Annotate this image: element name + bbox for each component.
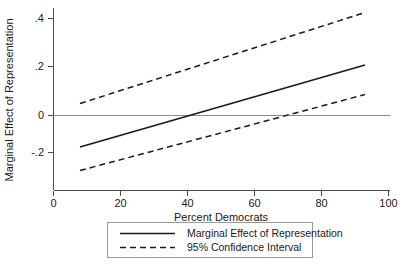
y-tick-label-1: .2 <box>35 60 44 72</box>
x-tick-label-0: 0 <box>50 197 56 209</box>
y-tick-label-0: .4 <box>35 12 44 24</box>
x-tick-label-2: 40 <box>181 197 193 209</box>
x-tick-label-3: 60 <box>248 197 260 209</box>
x-axis-title: Percent Democrats <box>174 211 269 223</box>
y-tick-label-2: 0 <box>38 109 44 121</box>
x-tick-label-5: 100 <box>379 197 397 209</box>
chart-figure: .4 .2 0 -.2 0 20 40 60 80 100 Percent De… <box>0 0 402 267</box>
marginal-effect-plot: .4 .2 0 -.2 0 20 40 60 80 100 Percent De… <box>0 0 402 267</box>
x-tick-label-1: 20 <box>114 197 126 209</box>
y-tick-label-3: -.2 <box>31 146 44 158</box>
legend-label-confidence-interval: 95% Confidence Interval <box>187 241 301 253</box>
x-tick-label-4: 80 <box>315 197 327 209</box>
y-axis-title: Marginal Effect of Representation <box>3 18 15 181</box>
legend-label-marginal-effect: Marginal Effect of Representation <box>187 227 343 239</box>
